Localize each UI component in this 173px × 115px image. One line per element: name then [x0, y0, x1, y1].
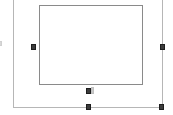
bounding-box-left-edge: [13, 0, 14, 108]
resize-handle-bottom-right[interactable]: [159, 104, 164, 110]
resize-handle-left-edge-partial[interactable]: [0, 41, 2, 46]
selection-canvas[interactable]: [0, 0, 173, 115]
selected-rectangle[interactable]: [39, 5, 143, 85]
resize-handle-middle-right[interactable]: [160, 44, 165, 50]
bounding-box-right-edge: [162, 0, 163, 108]
resize-handle-bottom-center-outer[interactable]: [86, 104, 91, 110]
resize-handle-middle-left[interactable]: [31, 44, 36, 50]
resize-handle-bottom-center-ghost[interactable]: [91, 87, 94, 94]
